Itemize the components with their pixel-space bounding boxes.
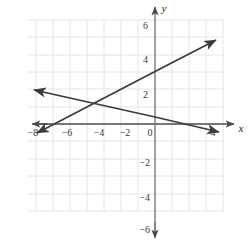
axes — [32, 7, 234, 238]
x-tick-label: −6 — [62, 127, 73, 138]
x-tick-label: −2 — [120, 127, 131, 138]
graph-figure: −8 −6 −4 −2 0 4 6 4 2 −2 −4 −6 x y — [0, 0, 249, 241]
coordinate-plane-svg: −8 −6 −4 −2 0 4 6 4 2 −2 −4 −6 x y — [0, 0, 249, 241]
y-tick-label: −6 — [139, 224, 150, 235]
x-tick-label: 0 — [148, 127, 153, 138]
line-falling — [34, 90, 219, 132]
y-tick-label: −2 — [139, 157, 150, 168]
x-tick-label: −8 — [28, 127, 39, 138]
y-axis-label: y — [161, 2, 167, 14]
y-tick-label: 6 — [143, 20, 148, 31]
y-tick-label: 4 — [143, 54, 148, 65]
y-tick-label: −4 — [139, 192, 150, 203]
x-tick-labels: −8 −6 −4 −2 0 4 — [28, 127, 216, 138]
x-axis-label: x — [238, 122, 244, 134]
x-tick-label: 4 — [211, 127, 216, 138]
x-tick-label: −4 — [94, 127, 105, 138]
grid-lines — [28, 20, 224, 211]
y-tick-label: 2 — [143, 89, 148, 100]
